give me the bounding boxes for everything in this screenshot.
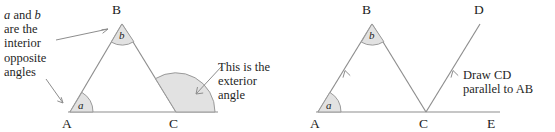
- right-vertex-label-B: B: [362, 2, 371, 17]
- left-angle-label-b: b: [119, 29, 125, 41]
- callout-interior-opposite-angles: a and b are the interior opposite angles: [4, 8, 78, 79]
- left-vertex-label-A: A: [62, 116, 72, 131]
- left-pointer-to-angle-a: [46, 79, 63, 103]
- right-angle-label-b: b: [369, 29, 375, 41]
- left-vertex-label-C: C: [169, 116, 178, 131]
- parallel-mark-CD-icon: [451, 71, 458, 78]
- callout-exterior-angle: This is the exterior angle: [218, 60, 308, 103]
- callout-interior-rest: are the interior opposite angles: [4, 22, 46, 79]
- callout-italic-b: b: [35, 8, 41, 22]
- left-exterior-angle-sector: [156, 73, 216, 112]
- left-angle-label-a: a: [78, 99, 84, 111]
- right-vertex-label-C: C: [419, 116, 428, 131]
- figure-canvas: B A C a b: [0, 0, 555, 132]
- callout-draw-cd-parallel: Draw CD parallel to AB: [463, 68, 555, 96]
- right-vertex-label-A: A: [310, 116, 320, 131]
- right-angle-label-a: a: [326, 99, 332, 111]
- right-vertex-label-D: D: [474, 2, 484, 17]
- left-vertex-label-B: B: [112, 2, 121, 17]
- right-vertex-label-E: E: [487, 116, 495, 131]
- callout-and-text: and: [10, 8, 34, 22]
- parallel-mark-AB-icon: [343, 71, 350, 78]
- right-diagram-group: B D A C E a b: [310, 2, 500, 131]
